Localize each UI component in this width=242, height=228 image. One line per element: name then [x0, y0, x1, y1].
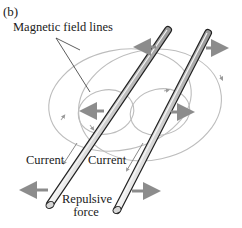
current-label-right: Current [88, 154, 126, 167]
repulsive-force-label: Repulsive force [62, 193, 110, 219]
current-label-left: Current [26, 154, 64, 167]
label-pointer-lines [56, 38, 90, 92]
repulsive-force-line2: force [62, 206, 110, 219]
diagram-canvas [0, 0, 242, 228]
wire-right [112, 33, 208, 215]
wire-left [45, 30, 168, 210]
